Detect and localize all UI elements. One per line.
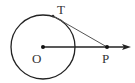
tangent-segment-tp — [53, 16, 107, 47]
label-t: T — [57, 2, 65, 17]
point-o — [41, 45, 45, 49]
point-p — [105, 45, 109, 49]
tangent-diagram: O T P — [0, 0, 135, 83]
label-p: P — [102, 51, 109, 66]
label-o: O — [32, 51, 41, 66]
point-t — [52, 15, 55, 18]
